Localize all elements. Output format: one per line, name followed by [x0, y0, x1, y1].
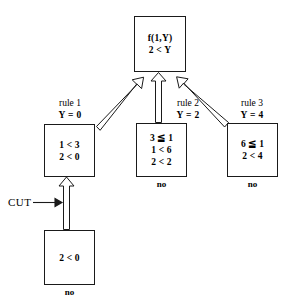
answer-rule-2: no	[136, 179, 187, 189]
label-cut: CUT	[8, 196, 32, 208]
node-rule-3-line-0: 6 ≦ 1	[241, 138, 264, 150]
rule-2-name: rule 2	[158, 97, 218, 109]
rule-3-name: rule 3	[221, 97, 283, 109]
node-root-line-0: f(1,Y)	[148, 32, 173, 44]
node-rule-2: 3 ≦ 1 1 < 6 2 < 2	[136, 123, 187, 177]
node-root-line-1: 2 < Y	[149, 44, 171, 56]
node-cut-goal: 2 < 0	[44, 230, 95, 285]
rule-1-name: rule 1	[40, 97, 100, 109]
answer-cut: no	[44, 287, 95, 297]
node-rule-2-line-1: 1 < 6	[151, 144, 172, 156]
node-rule-1-line-0: 1 < 3	[59, 139, 80, 151]
node-cut-line-0: 2 < 0	[59, 252, 80, 264]
node-root-goal: f(1,Y) 2 < Y	[134, 16, 186, 72]
node-rule-2-line-2: 2 < 2	[151, 156, 172, 168]
label-rule-3: rule 3 Y = 4	[221, 97, 283, 121]
rule-2-binding: Y = 2	[158, 109, 218, 121]
diagram-canvas: f(1,Y) 2 < Y rule 1 Y = 0 1 < 3 2 < 0 ru…	[0, 0, 298, 308]
answer-rule-3: no	[227, 179, 278, 189]
edge-cut-arrow	[59, 177, 74, 230]
node-rule-2-line-0: 3 ≦ 1	[150, 132, 173, 144]
cut-pointer-arrow	[33, 199, 62, 207]
node-rule-1-line-1: 2 < 0	[59, 151, 80, 163]
label-rule-2: rule 2 Y = 2	[158, 97, 218, 121]
label-rule-1: rule 1 Y = 0	[40, 97, 100, 121]
rule-3-binding: Y = 4	[221, 109, 283, 121]
rule-1-binding: Y = 0	[40, 109, 100, 121]
node-rule-3-line-1: 2 < 4	[242, 150, 263, 162]
node-rule-1: 1 < 3 2 < 0	[44, 124, 95, 177]
node-rule-3: 6 ≦ 1 2 < 4	[227, 123, 278, 177]
